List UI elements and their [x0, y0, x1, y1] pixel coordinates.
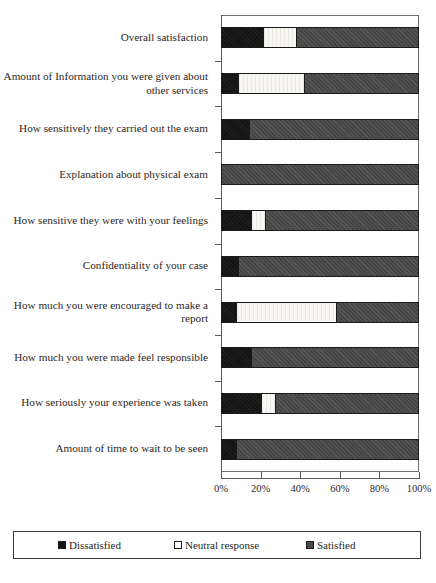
bar-segment-satisfied: [251, 348, 418, 367]
bar-segment-dissatisfied: [222, 394, 261, 413]
bar-segment-neutral-response: [261, 394, 275, 413]
category-label: Amount of time to wait to be seen: [0, 442, 214, 456]
category-label: How seriously your experience was taken: [0, 396, 214, 410]
bar-row: [221, 426, 419, 472]
bar-row: [221, 61, 419, 107]
bar-segment-neutral-response: [238, 74, 305, 93]
bar-segment-dissatisfied: [222, 74, 238, 93]
category-label: How much you were encouraged to make a r…: [0, 299, 214, 326]
legend-item-dissatisfied[interactable]: Dissatisfied: [58, 532, 121, 558]
stacked-bar[interactable]: [221, 119, 419, 140]
bar-segment-satisfied: [238, 257, 418, 276]
legend-swatch-icon: [306, 541, 314, 549]
bar-segment-satisfied: [336, 303, 418, 322]
bar-segment-satisfied: [304, 74, 418, 93]
x-axis-tick: [419, 472, 420, 479]
stacked-bar[interactable]: [221, 210, 419, 231]
legend-swatch-icon: [174, 541, 182, 549]
chart-legend: DissatisfiedNeutral responseSatisfied: [13, 531, 421, 559]
bar-row: [221, 152, 419, 198]
stacked-bar[interactable]: [221, 347, 419, 368]
category-label: Overall satisfaction: [0, 31, 214, 45]
bar-segment-dissatisfied: [222, 257, 238, 276]
bar-row: [221, 335, 419, 381]
stacked-bar[interactable]: [221, 302, 419, 323]
stacked-bar[interactable]: [221, 27, 419, 48]
legend-item-neutral-response[interactable]: Neutral response: [174, 532, 259, 558]
bar-segment-dissatisfied: [222, 28, 263, 47]
x-axis-tick: [300, 472, 301, 479]
category-label: How much you were made feel responsible: [0, 351, 214, 365]
x-axis-tick: [379, 472, 380, 479]
bar-segment-satisfied: [222, 165, 418, 184]
x-axis-tick: [340, 472, 341, 479]
stacked-bar[interactable]: [221, 393, 419, 414]
legend-label: Neutral response: [185, 539, 259, 551]
bar-segment-dissatisfied: [222, 348, 251, 367]
bar-segment-satisfied: [236, 440, 418, 459]
bar-row: [221, 198, 419, 244]
bar-segment-neutral-response: [236, 303, 336, 322]
bar-segment-satisfied: [275, 394, 418, 413]
chart-plot-area: Overall satisfactionAmount of Informatio…: [0, 0, 436, 500]
legend-item-satisfied[interactable]: Satisfied: [306, 532, 356, 558]
bar-row: [221, 289, 419, 335]
x-axis-tick: [261, 472, 262, 479]
category-label: Amount of Information you were given abo…: [0, 70, 214, 97]
stacked-bar[interactable]: [221, 73, 419, 94]
bar-segment-dissatisfied: [222, 303, 236, 322]
stacked-bar[interactable]: [221, 164, 419, 185]
legend-label: Satisfied: [317, 539, 356, 551]
x-axis-tick: [221, 472, 222, 479]
bar-row: [221, 381, 419, 427]
bar-segment-satisfied: [249, 120, 418, 139]
bar-row: [221, 106, 419, 152]
legend-swatch-icon: [58, 541, 66, 549]
x-axis-line: [221, 478, 420, 479]
bar-segment-satisfied: [265, 211, 418, 230]
category-label: Explanation about physical exam: [0, 168, 214, 182]
bar-segment-neutral-response: [251, 211, 265, 230]
bar-segment-neutral-response: [263, 28, 296, 47]
satisfaction-chart-figure: Overall satisfactionAmount of Informatio…: [0, 0, 436, 583]
bar-segment-dissatisfied: [222, 120, 249, 139]
category-label: Confidentiality of your case: [0, 259, 214, 273]
legend-label: Dissatisfied: [69, 539, 121, 551]
stacked-bar[interactable]: [221, 439, 419, 460]
bar-segment-satisfied: [296, 28, 418, 47]
stacked-bar[interactable]: [221, 256, 419, 277]
category-label: How sensitively they carried out the exa…: [0, 122, 214, 136]
x-axis-tick-label: 100%: [396, 483, 436, 494]
bar-row: [221, 244, 419, 290]
bar-row: [221, 15, 419, 61]
category-label: How sensitive they were with your feelin…: [0, 214, 214, 228]
bar-segment-dissatisfied: [222, 211, 251, 230]
bar-segment-dissatisfied: [222, 440, 236, 459]
